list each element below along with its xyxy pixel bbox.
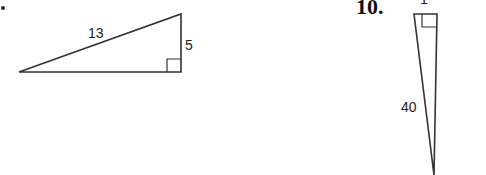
right-angle-marker (167, 59, 181, 72)
problem-number: 10. (356, 0, 384, 19)
figure-canvas: 13 5 10. 1 40 (0, 0, 486, 175)
problem-10: 10. 1 40 (356, 0, 437, 175)
hypotenuse-label: 13 (88, 25, 104, 41)
hypotenuse-label: 40 (401, 99, 417, 115)
leg-label: 5 (185, 37, 193, 53)
problem-marker-dot (1, 6, 5, 10)
problem-9: 13 5 (1, 6, 193, 72)
triangle-10 (414, 14, 437, 175)
top-leg-label: 1 (420, 0, 428, 7)
triangle-9 (19, 14, 181, 72)
right-angle-marker (422, 14, 437, 27)
